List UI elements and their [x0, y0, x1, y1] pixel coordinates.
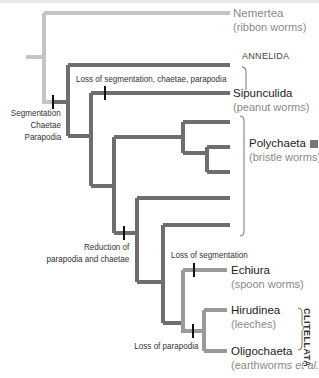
outgroup-branches: [26, 13, 230, 102]
group-annelida: ANNELIDA: [242, 52, 289, 62]
taxon-echiura: Echiura: [231, 264, 270, 277]
polychaeta-bracket: [240, 116, 244, 236]
common-sipunculida: (peanut worms): [233, 101, 309, 113]
taxon-nemertea: Nemertea: [233, 7, 284, 20]
taxon-oligochaeta: Oligochaeta: [231, 345, 292, 358]
event-reduction-1: Reduction of: [84, 242, 129, 252]
polychaeta-name: Polychaeta: [249, 137, 306, 149]
common-polychaeta: (bristle worms): [249, 151, 319, 163]
event-segmentation-2: Chaetae: [30, 120, 61, 130]
event-loss-top: Loss of segmentation, chaetae, parapodia: [76, 74, 226, 84]
common-hirudinea: (leeches): [231, 318, 276, 330]
common-oligochaeta-prefix: (earthworms: [231, 359, 295, 371]
taxon-sipunculida: Sipunculida: [233, 87, 292, 100]
taxon-hirudinea: Hirudinea: [231, 304, 280, 317]
event-segmentation-3: Parapodia: [24, 132, 61, 142]
event-loss-parapodia: Loss of parapodia: [135, 341, 199, 351]
tick-marks: [53, 86, 194, 338]
square-marker-icon: [310, 140, 318, 148]
common-nemertea: (ribbon worms): [233, 21, 306, 33]
taxon-polychaeta: Polychaeta: [249, 137, 318, 150]
clade-clitellata: CLITELLATA: [302, 308, 312, 367]
clitellate-branches: [183, 270, 227, 351]
event-segmentation-1: Segmentation: [11, 108, 61, 118]
event-loss-segmentation: Loss of segmentation: [171, 250, 248, 260]
event-reduction-2: parapodia and chaetae: [46, 254, 129, 264]
common-echiura: (spoon worms): [231, 278, 304, 290]
annelid-branches: [52, 65, 230, 323]
